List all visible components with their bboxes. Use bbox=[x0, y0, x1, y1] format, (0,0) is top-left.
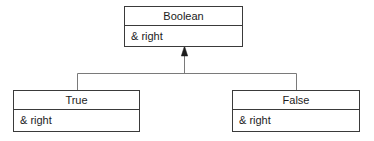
class-box-false[interactable]: False & right bbox=[232, 90, 360, 132]
class-box-boolean[interactable]: Boolean & right bbox=[124, 6, 243, 47]
class-box-true[interactable]: True & right bbox=[13, 90, 140, 132]
class-diagram-canvas: Boolean & right True & right False & rig… bbox=[0, 0, 374, 141]
class-attribute-false: & right bbox=[233, 110, 359, 131]
class-attribute-boolean: & right bbox=[125, 26, 242, 47]
class-attribute-true: & right bbox=[14, 110, 139, 131]
class-name-false: False bbox=[233, 91, 359, 110]
class-name-true: True bbox=[14, 91, 139, 110]
class-name-boolean: Boolean bbox=[125, 7, 242, 26]
